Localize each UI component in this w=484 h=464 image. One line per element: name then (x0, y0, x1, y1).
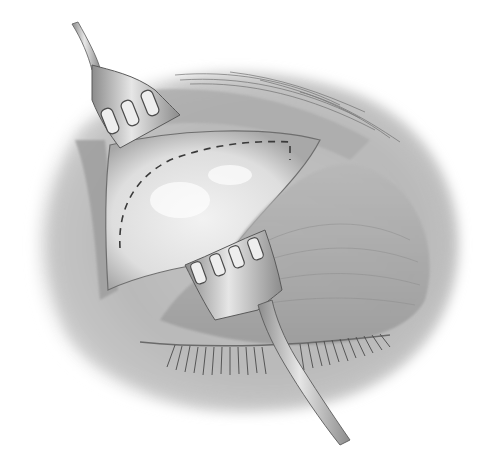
illustration-canvas (0, 0, 484, 464)
surgical-illustration (0, 0, 484, 464)
